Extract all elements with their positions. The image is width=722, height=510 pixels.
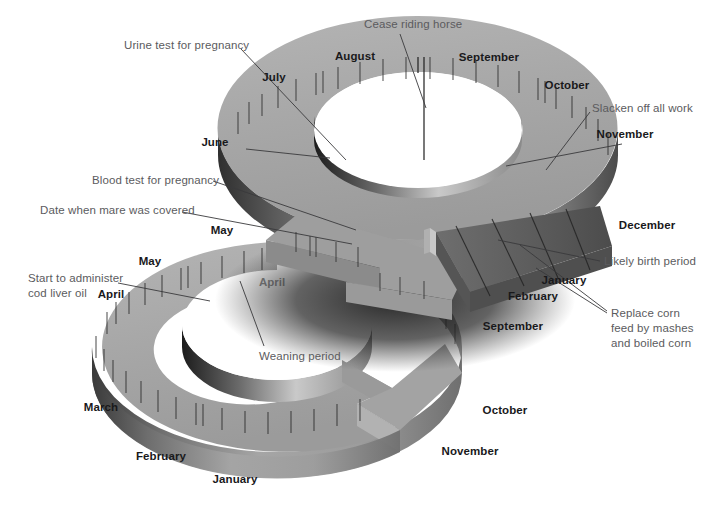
upper-ring-month-january: January	[542, 274, 587, 288]
upper-ring-month-july: July	[262, 71, 285, 85]
diagram-canvas: July August September October November D…	[0, 0, 722, 510]
note-urine-test: Urine test for pregnancy	[124, 39, 249, 53]
note-cease-riding-horse: Cease riding horse	[364, 18, 462, 32]
lower-ring-month-september: September	[483, 320, 543, 334]
upper-ring-month-june: June	[201, 136, 228, 150]
note-blood-test: Blood test for pregnancy	[92, 174, 219, 188]
note-slacken-off-work: Slacken off all work	[592, 102, 693, 116]
upper-ring-month-november: November	[596, 128, 653, 142]
lower-ring-month-march: March	[84, 401, 118, 415]
lower-ring-month-october: October	[483, 404, 528, 418]
lower-ring-month-january: January	[213, 473, 258, 487]
upper-ring-month-october: October	[545, 79, 590, 93]
upper-ring-month-december: December	[619, 219, 675, 233]
lower-ring-month-may: May	[139, 255, 162, 269]
upper-ring-hole	[314, 72, 522, 188]
lower-ring-month-april-occluded: April	[259, 276, 285, 290]
note-replace-corn-feed: Replace corn feed by mashes and boiled c…	[611, 306, 694, 352]
lower-ring-month-november: November	[441, 445, 498, 459]
note-cod-liver-oil: Start to administer cod liver oil	[28, 271, 123, 301]
lower-ring-month-february: February	[136, 450, 186, 464]
upper-ring-month-september: September	[459, 51, 519, 65]
note-weaning-period: Weaning period	[259, 350, 341, 364]
upper-ring-month-may: May	[211, 224, 234, 238]
upper-ring-month-february: February	[508, 290, 558, 304]
upper-ring-month-august: August	[335, 50, 375, 64]
note-date-mare-covered: Date when mare was covered	[40, 204, 195, 218]
note-likely-birth-period: Likely birth period	[604, 255, 696, 269]
